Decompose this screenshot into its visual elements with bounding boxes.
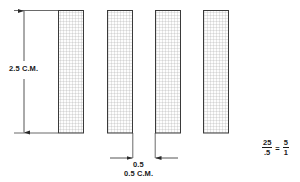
ratio-fraction-right: 5 1 [283, 139, 289, 157]
bar-3 [156, 11, 181, 134]
diagram-drawing [0, 0, 300, 182]
bar-group [59, 11, 229, 134]
ratio-denominator-left: .5 [263, 148, 271, 156]
gap-dimension-label-bottom: 0.5 C.M. [124, 169, 153, 178]
ratio-equals-sign: = [275, 143, 279, 153]
ratio-numerator-left: 25 [262, 139, 272, 148]
bar-1 [59, 11, 84, 134]
ratio-annotation: 25 .5 = 5 1 [262, 139, 289, 157]
gap-dimension-group [110, 133, 178, 158]
bar-4 [204, 11, 229, 134]
ratio-fraction-left: 25 .5 [262, 139, 272, 157]
ratio-denominator-right: 1 [283, 148, 289, 156]
ratio-numerator-right: 5 [283, 139, 289, 148]
gap-dimension-label-top: 0.5 [133, 160, 144, 169]
height-dimension-label: 2.5 C.M. [9, 64, 38, 73]
bar-2 [108, 11, 133, 134]
diagram-canvas: 2.5 C.M. 0.5 0.5 C.M. 25 .5 = 5 1 [0, 0, 300, 182]
